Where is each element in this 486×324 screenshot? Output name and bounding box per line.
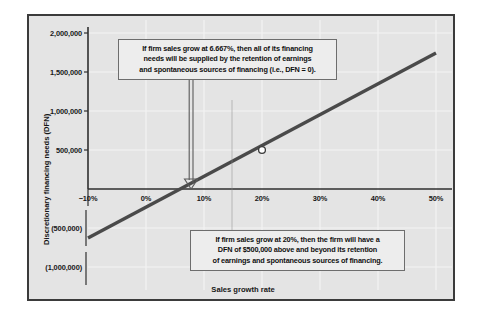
x-tick-label-10: 10% <box>184 194 224 203</box>
x-tick-label-40: 40% <box>358 194 398 203</box>
x-tick-label-0: 0% <box>126 194 166 203</box>
annotation-x-intercept: If firm sales grow at 6.667%, then all o… <box>118 39 337 80</box>
y-tick-label-2000000: 2,000,000 <box>16 29 82 38</box>
x-tick-label-50: 50% <box>416 194 456 203</box>
data-point-marker <box>259 147 266 154</box>
x-tick-label-20: 20% <box>242 194 282 203</box>
chart-figure: 2,000,000 1,500,000 1,000,000 500,000 (5… <box>0 0 486 324</box>
annotation-x-intercept-line-1: If firm sales grow at 6.667%, then all o… <box>124 44 331 54</box>
annotation-dfn-value-line-3: of earnings and spontaneous sources of f… <box>196 256 399 266</box>
y-tick-label-1500000: 1,500,000 <box>16 68 82 77</box>
annotation-x-intercept-line-2: needs will be supplied by the retention … <box>124 54 331 64</box>
annotation-x-intercept-line-3: and spontaneous sources of financing (i.… <box>124 65 331 75</box>
x-tick-label--10: −10% <box>68 194 108 203</box>
annotation-dfn-value-line-1: If firm sales grow at 20%, then the firm… <box>196 235 399 245</box>
intercept-arrow <box>185 73 198 189</box>
y-tick-label--1000000: (1,000,000) <box>16 263 82 272</box>
y-axis-title: Discretionary financing needs (DFN) <box>42 114 51 245</box>
annotation-dfn-value: If firm sales grow at 20%, then the firm… <box>190 230 405 271</box>
x-axis-title: Sales growth rate <box>0 285 486 294</box>
annotation-dfn-value-line-2: DFN of $500,000 above and beyond its ret… <box>196 245 399 255</box>
x-tick-label-30: 30% <box>300 194 340 203</box>
